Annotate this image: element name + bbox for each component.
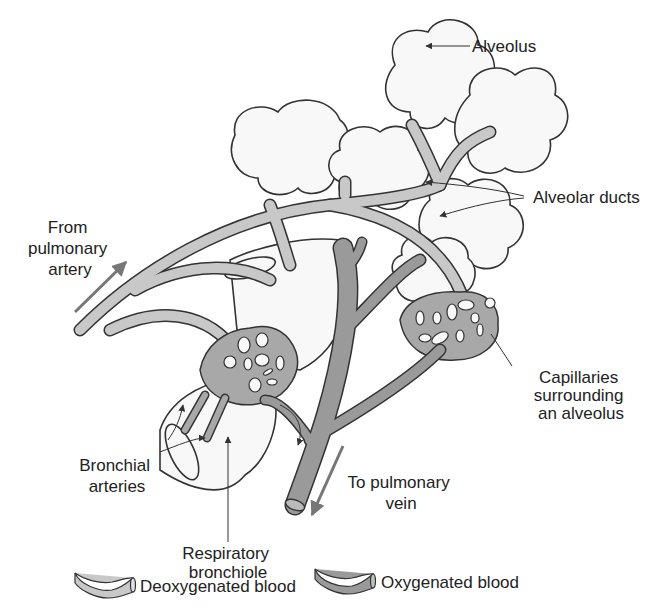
alveolus-right-top	[455, 68, 568, 173]
label-capillaries: Capillaries surrounding an alveolus	[534, 368, 629, 423]
legend: Deoxygenated blood Oxygenated blood	[75, 569, 519, 598]
pulmonary-circulation-diagram: Alveolus Alveolar ducts From pulmonary a…	[0, 0, 668, 616]
legend-item-oxygenated: Oxygenated blood	[315, 569, 519, 594]
legend-label-deoxygenated: Deoxygenated blood	[140, 577, 296, 596]
label-to-pulmonary-vein: To pulmonary vein	[348, 473, 455, 513]
label-alveolus: Alveolus	[472, 37, 536, 56]
label-from-pulmonary-artery: From pulmonary artery	[28, 218, 112, 279]
legend-item-deoxygenated: Deoxygenated blood	[75, 573, 296, 598]
label-alveolar-ducts: Alveolar ducts	[533, 188, 640, 207]
alveolus-left	[232, 100, 350, 194]
capillary-network-alveolus	[400, 292, 498, 360]
label-bronchial-arteries: Bronchial arteries	[79, 456, 155, 496]
legend-label-oxygenated: Oxygenated blood	[381, 573, 519, 592]
